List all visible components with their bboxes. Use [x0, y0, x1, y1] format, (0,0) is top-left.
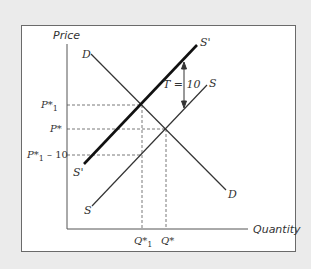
price-axis-label: Price [53, 29, 80, 42]
p-star-label: P* [49, 123, 62, 134]
q1-star-label: Q*1 [134, 235, 152, 249]
tax-label: T = 10 [163, 78, 201, 91]
demand-top-label: D [81, 48, 91, 61]
shifted-supply-top-label: S' [200, 36, 211, 49]
demand-curve [91, 54, 226, 190]
supply-bottom-label: S [84, 204, 92, 217]
supply-demand-diagram: D D S S S' S' T = 10 Price Quantity P*1 … [0, 0, 311, 269]
demand-bottom-label: D [227, 188, 237, 201]
shifted-supply-curve [84, 45, 197, 164]
quantity-axis-label: Quantity [253, 223, 301, 236]
supply-top-label: S [209, 77, 217, 90]
supply-curve [92, 85, 207, 206]
p1-minus-10-label: P*1 – 10 [26, 149, 68, 163]
p1-star-label: P*1 [40, 99, 58, 113]
shifted-supply-bottom-label: S' [73, 166, 84, 179]
diagram-page: D D S S S' S' T = 10 Price Quantity P*1 … [0, 0, 311, 269]
q-star-label: Q* [161, 235, 174, 246]
